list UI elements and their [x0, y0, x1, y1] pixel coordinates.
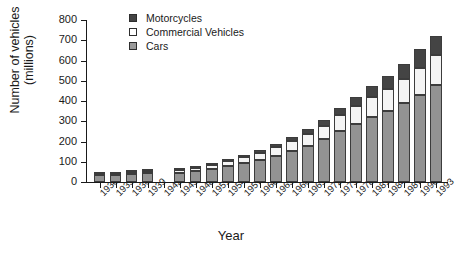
bar-segment-motorcycles[interactable]	[126, 170, 138, 172]
bar-segment-commercial-vehicles[interactable]	[254, 153, 266, 160]
legend-item-cars[interactable]: Cars	[129, 39, 244, 52]
bar-1993[interactable]	[430, 36, 442, 182]
bar-1969[interactable]	[302, 129, 314, 182]
bar-segment-cars[interactable]	[206, 169, 218, 182]
bar-segment-commercial-vehicles[interactable]	[142, 171, 154, 173]
bar-segment-cars[interactable]	[366, 117, 378, 182]
bar-segment-commercial-vehicles[interactable]	[382, 89, 394, 111]
bar-1966[interactable]	[286, 137, 298, 182]
bar-segment-cars[interactable]	[414, 95, 426, 182]
bar-segment-motorcycles[interactable]	[94, 172, 106, 174]
y-tick-label: 600	[59, 54, 77, 66]
bar-1957[interactable]	[238, 155, 250, 182]
bar-segment-motorcycles[interactable]	[238, 155, 250, 157]
bar-segment-motorcycles[interactable]	[222, 159, 234, 161]
y-tick: 0	[81, 182, 86, 183]
bar-segment-motorcycles[interactable]	[398, 64, 410, 79]
bar-segment-motorcycles[interactable]	[110, 172, 122, 174]
bar-1963[interactable]	[270, 144, 282, 182]
bar-segment-motorcycles[interactable]	[190, 166, 202, 168]
y-tick-label: 500	[59, 74, 77, 86]
bar-1954[interactable]	[222, 159, 234, 182]
bar-segment-cars[interactable]	[174, 173, 186, 182]
bar-segment-cars[interactable]	[430, 85, 442, 182]
bar-segment-motorcycles[interactable]	[382, 76, 394, 89]
bar-segment-commercial-vehicles[interactable]	[334, 115, 346, 131]
bar-segment-cars[interactable]	[110, 175, 122, 182]
bar-segment-cars[interactable]	[94, 175, 106, 182]
bar-segment-cars[interactable]	[142, 173, 154, 182]
y-tick: 200	[81, 142, 86, 143]
y-axis-line	[86, 20, 87, 182]
y-tick: 500	[81, 81, 86, 82]
y-tick: 600	[81, 61, 86, 62]
bar-1948[interactable]	[190, 168, 202, 182]
bar-segment-commercial-vehicles[interactable]	[318, 126, 330, 140]
bar-1960[interactable]	[254, 150, 266, 182]
bar-segment-commercial-vehicles[interactable]	[286, 141, 298, 151]
legend-item-motorcycles[interactable]: Motorcycles	[129, 11, 244, 24]
bar-segment-cars[interactable]	[222, 166, 234, 182]
bar-segment-motorcycles[interactable]	[142, 169, 154, 171]
bar-segment-motorcycles[interactable]	[430, 36, 442, 55]
bar-segment-motorcycles[interactable]	[174, 168, 186, 170]
bar-segment-motorcycles[interactable]	[318, 120, 330, 126]
bar-1990[interactable]	[414, 49, 426, 182]
bar-segment-cars[interactable]	[286, 151, 298, 182]
bar-segment-cars[interactable]	[334, 131, 346, 182]
bar-segment-commercial-vehicles[interactable]	[270, 147, 282, 156]
bar-1945[interactable]	[174, 170, 186, 182]
x-axis-title: Year	[0, 228, 462, 243]
y-tick-label: 100	[59, 155, 77, 167]
bar-segment-cars[interactable]	[398, 103, 410, 182]
bar-segment-motorcycles[interactable]	[254, 150, 266, 152]
bar-segment-cars[interactable]	[190, 171, 202, 182]
bar-1984[interactable]	[382, 76, 394, 182]
legend-swatch-icon	[129, 28, 137, 36]
bar-segment-cars[interactable]	[302, 146, 314, 182]
chart-legend: MotorcyclesCommercial VehiclesCars	[129, 11, 244, 53]
bar-1975[interactable]	[334, 108, 346, 182]
y-tick-label: 300	[59, 114, 77, 126]
y-tick: 400	[81, 101, 86, 102]
bar-1951[interactable]	[206, 164, 218, 182]
bar-segment-motorcycles[interactable]	[334, 108, 346, 115]
bar-1933[interactable]	[110, 173, 122, 182]
bar-1936[interactable]	[126, 172, 138, 182]
bar-segment-cars[interactable]	[350, 124, 362, 182]
bar-segment-cars[interactable]	[318, 139, 330, 182]
bar-segment-cars[interactable]	[382, 111, 394, 182]
bar-1972[interactable]	[318, 120, 330, 182]
bar-segment-cars[interactable]	[238, 163, 250, 182]
y-axis-title: Number of vehicles (millions)	[2, 0, 42, 140]
bar-segment-commercial-vehicles[interactable]	[222, 161, 234, 166]
y-tick-label: 700	[59, 33, 77, 45]
bar-segment-cars[interactable]	[270, 156, 282, 182]
legend-item-commercial-vehicles[interactable]: Commercial Vehicles	[129, 25, 244, 38]
bar-1939[interactable]	[142, 171, 154, 182]
bar-segment-motorcycles[interactable]	[366, 86, 378, 97]
bar-segment-commercial-vehicles[interactable]	[238, 157, 250, 163]
bar-segment-motorcycles[interactable]	[350, 97, 362, 106]
bar-segment-commercial-vehicles[interactable]	[398, 79, 410, 103]
bar-1978[interactable]	[350, 97, 362, 182]
bar-segment-commercial-vehicles[interactable]	[206, 165, 218, 169]
bar-segment-cars[interactable]	[126, 174, 138, 182]
bar-segment-commercial-vehicles[interactable]	[190, 168, 202, 171]
bar-segment-commercial-vehicles[interactable]	[174, 170, 186, 172]
bar-segment-commercial-vehicles[interactable]	[366, 97, 378, 117]
y-tick: 300	[81, 121, 86, 122]
bar-segment-commercial-vehicles[interactable]	[350, 106, 362, 124]
bar-1930[interactable]	[94, 173, 106, 182]
bar-segment-motorcycles[interactable]	[414, 49, 426, 67]
bar-1981[interactable]	[366, 86, 378, 182]
bar-segment-motorcycles[interactable]	[302, 129, 314, 133]
bar-segment-commercial-vehicles[interactable]	[414, 68, 426, 95]
bar-1987[interactable]	[398, 64, 410, 182]
bar-segment-commercial-vehicles[interactable]	[302, 134, 314, 146]
bar-segment-motorcycles[interactable]	[286, 137, 298, 141]
bar-segment-commercial-vehicles[interactable]	[430, 55, 442, 84]
bar-segment-motorcycles[interactable]	[206, 163, 218, 165]
bar-segment-motorcycles[interactable]	[270, 144, 282, 147]
bar-segment-cars[interactable]	[254, 160, 266, 182]
